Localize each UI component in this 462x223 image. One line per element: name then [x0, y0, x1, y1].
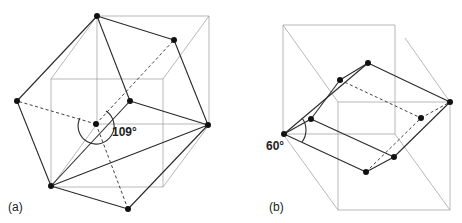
- atoms-b: [281, 60, 453, 175]
- cube-frame-b: [283, 25, 450, 210]
- angle-arc-a: [78, 111, 114, 144]
- panel-b: 60° (b): [266, 25, 453, 214]
- angle-label-b: 60°: [266, 139, 284, 153]
- diagram-canvas: 109° (a): [0, 0, 462, 223]
- panel-a: 109° (a): [8, 13, 211, 214]
- atoms-a: [14, 13, 211, 212]
- panel-label-b: (b): [269, 200, 284, 214]
- polyhedron-edges-a: [17, 16, 208, 209]
- panel-label-a: (a): [8, 200, 23, 214]
- angle-label-a: 109°: [112, 125, 137, 139]
